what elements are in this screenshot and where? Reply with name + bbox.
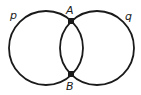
label-q: q — [125, 10, 132, 23]
point-a-marker — [68, 18, 74, 24]
label-b: B — [66, 80, 74, 93]
label-p: p — [9, 9, 17, 22]
two-circles-diagram: p q A B — [0, 0, 141, 95]
point-b-marker — [68, 71, 74, 77]
label-a: A — [65, 4, 74, 17]
